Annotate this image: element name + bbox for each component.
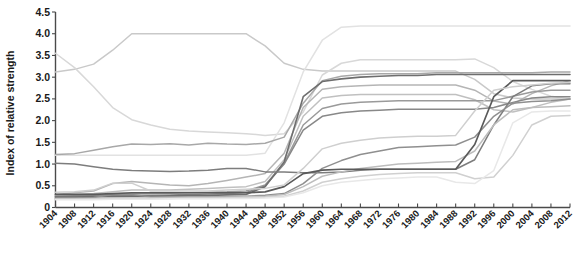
y-axis-label-group: Index of relative strength — [4, 51, 16, 176]
y-tick-label: 4.0 — [35, 27, 50, 39]
y-tick-label: 3.0 — [35, 71, 50, 83]
x-tick-label: 1932 — [170, 208, 193, 231]
x-tick-label: 1940 — [208, 208, 231, 231]
x-tick-label: 1944 — [227, 207, 250, 230]
y-tick-label: 2.5 — [35, 92, 50, 104]
chart-container: Index of relative strength 00.51.01.52.0… — [0, 0, 578, 260]
y-tick-label: 2.0 — [35, 114, 50, 126]
x-tick-label: 1904 — [37, 207, 60, 230]
line-chart: Index of relative strength 00.51.01.52.0… — [0, 0, 578, 260]
x-tick-label: 1960 — [303, 208, 326, 231]
x-tick-label: 1992 — [456, 208, 479, 231]
x-tick-label: 1988 — [437, 208, 460, 231]
series-lines — [56, 26, 571, 200]
x-tick-label: 2004 — [513, 207, 536, 230]
x-tick-label: 1952 — [265, 208, 288, 231]
x-tick-label: 1976 — [380, 208, 403, 231]
y-axis-label: Index of relative strength — [4, 51, 16, 176]
x-tick-label: 1924 — [132, 207, 155, 230]
x-tick-label: 1936 — [189, 208, 212, 231]
x-tick-label: 1908 — [56, 208, 79, 231]
x-tick-label: 1928 — [151, 208, 174, 231]
x-tick-label: 1968 — [342, 208, 365, 231]
x-tick-label: 2000 — [494, 208, 517, 231]
x-tick-label: 1920 — [113, 208, 136, 231]
series-line — [56, 90, 571, 196]
y-tick-label: 3.5 — [35, 49, 50, 61]
y-axis-tick-labels: 00.51.01.52.02.53.03.54.04.5 — [35, 6, 50, 214]
series-line — [56, 95, 571, 196]
x-tick-label: 1964 — [323, 207, 346, 230]
x-tick-label: 1948 — [246, 208, 269, 231]
x-tick-label: 1912 — [75, 208, 98, 231]
series-line — [56, 72, 571, 155]
y-tick-label: 4.5 — [35, 6, 50, 18]
x-tick-label: 1956 — [284, 208, 307, 231]
x-tick-label: 2012 — [551, 208, 574, 231]
x-tick-label: 1984 — [418, 207, 441, 230]
x-tick-label: 1996 — [475, 208, 498, 231]
x-tick-label: 2008 — [532, 208, 555, 231]
x-tick-label: 1980 — [399, 208, 422, 231]
y-tick-label: 1.5 — [35, 136, 50, 148]
x-tick-label: 1972 — [361, 208, 384, 231]
x-axis-tick-labels: 1904190819121916192019241928193219361940… — [37, 207, 574, 230]
x-tick-label: 1916 — [94, 208, 117, 231]
y-tick-label: 1.0 — [35, 158, 50, 170]
y-tick-label: 0.5 — [35, 179, 50, 191]
